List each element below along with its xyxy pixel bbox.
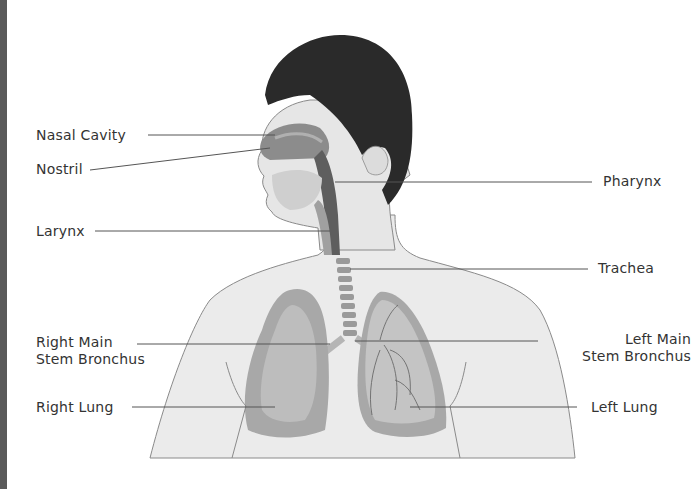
label-right-lung: Right Lung	[36, 399, 114, 416]
label-nostril: Nostril	[36, 161, 83, 178]
label-right-main-stem-bronchus: Right Main Stem Bronchus	[36, 334, 145, 368]
label-right-main-stem-bronchus-line2: Stem Bronchus	[36, 351, 145, 368]
label-left-lung: Left Lung	[591, 399, 658, 416]
label-left-main-stem-bronchus-line1: Left Main	[582, 331, 691, 348]
label-nasal-cavity: Nasal Cavity	[36, 127, 126, 144]
label-left-main-stem-bronchus: Left Main Stem Bronchus	[582, 331, 691, 365]
label-larynx: Larynx	[36, 223, 85, 240]
label-pharynx: Pharynx	[603, 173, 662, 190]
label-right-main-stem-bronchus-line1: Right Main	[36, 334, 145, 351]
label-left-main-stem-bronchus-line2: Stem Bronchus	[582, 348, 691, 365]
label-trachea: Trachea	[598, 260, 654, 277]
